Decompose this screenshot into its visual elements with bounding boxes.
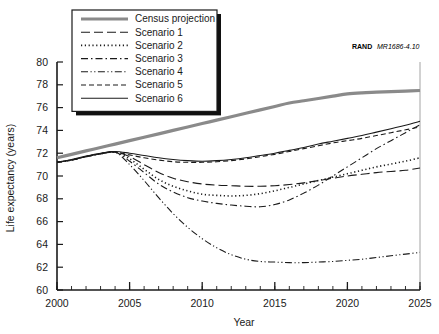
y-tick-label: 76: [36, 101, 48, 113]
y-tick-label: 72: [36, 147, 48, 159]
y-tick-label: 70: [36, 170, 48, 182]
x-tick-label: 2010: [191, 297, 215, 309]
x-tick-label: 2015: [263, 297, 287, 309]
legend-label: Scenario 5: [135, 79, 183, 90]
y-tick-label: 80: [36, 56, 48, 68]
credit-rand-label: RAND: [352, 43, 372, 50]
chart-legend: Census projectionScenario 1Scenario 2Sce…: [72, 10, 221, 115]
legend-label: Census projection: [135, 13, 215, 24]
life-expectancy-line-chart: 200020052010201520202025 606264666870727…: [0, 0, 439, 334]
legend-label: Scenario 2: [135, 40, 183, 51]
y-tick-label: 66: [36, 215, 48, 227]
y-tick-label: 68: [36, 192, 48, 204]
legend-label: Scenario 4: [135, 66, 183, 77]
rand-document-credit: RAND MR1686-4.10: [352, 43, 420, 50]
x-tick-label: 2020: [336, 297, 360, 309]
credit-report-id: MR1686-4.10: [377, 43, 420, 50]
legend-label: Scenario 1: [135, 27, 183, 38]
x-tick-label: 2025: [408, 297, 432, 309]
legend-label: Scenario 3: [135, 53, 183, 64]
legend-label: Scenario 6: [135, 93, 183, 104]
x-axis-title: Year: [233, 316, 255, 328]
chart-figure: 200020052010201520202025 606264666870727…: [0, 0, 439, 334]
y-tick-label: 64: [36, 238, 48, 250]
y-tick-label: 78: [36, 78, 48, 90]
y-tick-label: 62: [36, 261, 48, 273]
y-tick-label: 60: [36, 284, 48, 296]
x-tick-label: 2005: [118, 297, 142, 309]
y-axis-title: Life expectancy (years): [4, 124, 16, 233]
x-tick-label: 2000: [45, 297, 69, 309]
y-tick-label: 74: [36, 124, 48, 136]
